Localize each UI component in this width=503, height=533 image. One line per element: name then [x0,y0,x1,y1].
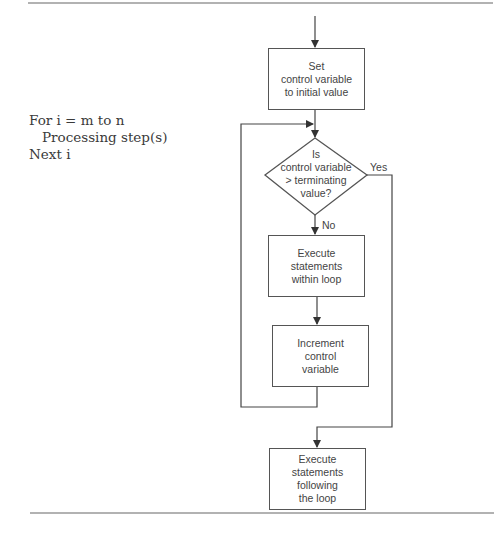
exit-line: statements [292,466,343,479]
pseudocode-line-body: Processing step(s) [29,129,167,146]
pseudocode-line-for: For i = m to n [29,112,167,129]
increment-line: Increment [297,337,344,350]
flowchart-figure: For i = m to n Processing step(s) Next i… [0,0,503,533]
start-box: Set control variable to initial value [268,48,365,110]
exit-line: Execute [292,453,343,466]
decision-line: > terminating [265,174,367,187]
exit-line: following [292,479,343,492]
increment-line: control [297,350,344,363]
increment-line: variable [297,363,344,376]
loop-body-box: Execute statements within loop [268,235,365,297]
decision-text: Is control variable > terminating value? [265,148,367,200]
exit-box: Execute statements following the loop [269,448,366,510]
pseudocode-block: For i = m to n Processing step(s) Next i [29,112,167,163]
start-box-line: Set [281,60,352,73]
start-box-line: control variable [281,73,352,86]
no-label: No [322,219,335,231]
yes-branch-arrow [317,175,392,447]
increment-box: Increment control variable [272,325,369,387]
loop-body-line: Execute [291,247,342,260]
loop-body-line: within loop [291,273,342,286]
pseudocode-line-next: Next i [29,146,167,163]
decision-line: Is [265,148,367,161]
flowchart-connectors [0,0,503,533]
start-box-line: to initial value [281,86,352,99]
decision-line: control variable [265,161,367,174]
yes-label: Yes [370,161,387,173]
decision-line: value? [265,187,367,200]
loop-body-line: statements [291,260,342,273]
exit-line: the loop [292,492,343,505]
